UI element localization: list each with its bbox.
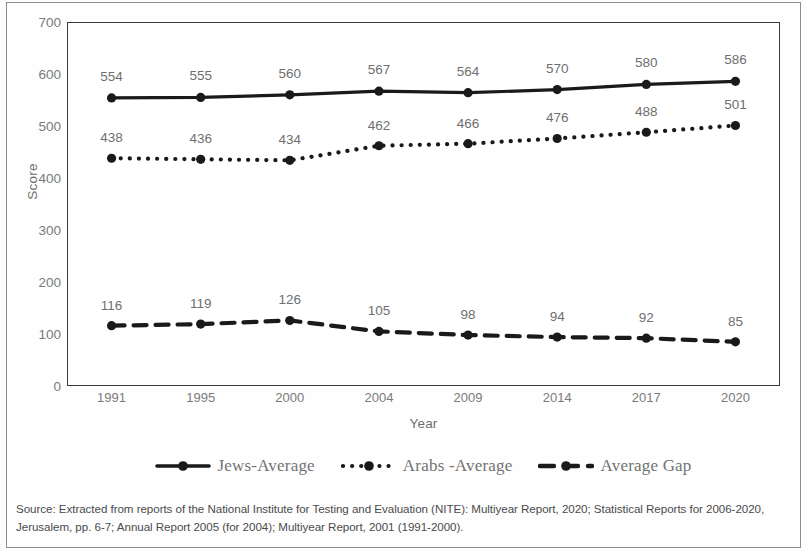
data-point-label: 94 (550, 309, 565, 324)
data-point-label: 570 (546, 61, 569, 76)
data-point-marker (285, 156, 294, 165)
data-point-marker (196, 320, 205, 329)
data-point-marker (642, 128, 651, 137)
data-point-label: 462 (368, 118, 391, 133)
data-point-label: 434 (279, 132, 302, 147)
series-plot (8, 4, 798, 444)
data-point-label: 564 (457, 64, 480, 79)
data-point-marker (285, 316, 294, 325)
legend-item-2[interactable]: Arabs -Average (341, 456, 513, 476)
data-point-label: 586 (724, 52, 747, 67)
solid-line-marker (155, 459, 211, 473)
data-point-label: 105 (368, 303, 391, 318)
data-point-label: 554 (100, 69, 123, 84)
data-point-label: 126 (279, 292, 302, 307)
data-point-marker (107, 321, 116, 330)
data-point-marker (374, 327, 383, 336)
legend-item-label: Arabs -Average (403, 456, 513, 476)
data-point-label: 438 (100, 130, 123, 145)
data-point-marker (553, 134, 562, 143)
chart-legend: Jews-AverageArabs -AverageAverage Gap (67, 456, 780, 476)
legend-item-3[interactable]: Average Gap (538, 456, 691, 476)
dashed-line-marker (538, 459, 594, 473)
data-point-label: 476 (546, 110, 569, 125)
figure-container: Score Year 0100200300400500600700 199119… (0, 0, 805, 551)
data-point-label: 488 (635, 104, 658, 119)
data-point-label: 501 (724, 97, 747, 112)
data-point-marker (463, 88, 472, 97)
data-point-marker (374, 87, 383, 96)
data-point-marker (553, 85, 562, 94)
data-point-marker (463, 139, 472, 148)
data-point-marker (731, 77, 740, 86)
chart-region: Score Year 0100200300400500600700 199119… (8, 4, 798, 492)
data-point-marker (285, 90, 294, 99)
data-point-marker (107, 154, 116, 163)
legend-item-label: Jews-Average (217, 456, 314, 476)
dotted-line-marker (341, 459, 397, 473)
data-point-label: 85 (728, 314, 743, 329)
legend-item-1[interactable]: Jews-Average (155, 456, 314, 476)
data-point-label: 116 (101, 298, 123, 313)
data-point-label: 567 (368, 62, 391, 77)
data-point-marker (374, 141, 383, 150)
data-point-marker (731, 121, 740, 130)
data-point-label: 436 (189, 131, 212, 146)
data-point-marker (196, 155, 205, 164)
data-point-label: 555 (189, 68, 212, 83)
data-point-marker (196, 93, 205, 102)
data-point-marker (463, 330, 472, 339)
data-point-marker (553, 333, 562, 342)
data-point-label: 98 (461, 307, 476, 322)
data-point-label: 560 (279, 66, 302, 81)
data-point-marker (642, 334, 651, 343)
legend-item-label: Average Gap (600, 456, 691, 476)
data-point-label: 466 (457, 116, 480, 131)
data-point-marker (731, 337, 740, 346)
data-point-label: 580 (635, 55, 658, 70)
data-point-label: 119 (190, 296, 212, 311)
data-point-marker (642, 80, 651, 89)
data-point-label: 92 (639, 310, 654, 325)
source-note: Source: Extracted from reports of the Na… (16, 500, 786, 536)
data-point-marker (107, 93, 116, 102)
